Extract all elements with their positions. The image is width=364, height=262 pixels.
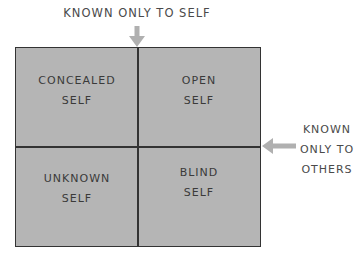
quadrant-label-line: SELF	[184, 91, 214, 111]
top-axis-label: KNOWN ONLY TO SELF	[0, 6, 274, 20]
quadrant-label-line: SELF	[62, 91, 92, 111]
right-label-line: ONLY TO	[290, 140, 364, 160]
quadrant-label-line: SELF	[184, 183, 214, 203]
quadrant-label-line: UNKNOWN	[44, 169, 111, 189]
quadrant-label-line: SELF	[62, 189, 92, 209]
johari-grid: CONCEALED SELF OPEN SELF UNKNOWN SELF BL…	[15, 47, 261, 247]
right-axis-label: KNOWN ONLY TO OTHERS	[290, 120, 364, 180]
quadrant-concealed-self: CONCEALED SELF	[16, 42, 138, 140]
quadrant-label-line: CONCEALED	[38, 71, 115, 91]
quadrant-blind-self: BLIND SELF	[138, 134, 260, 232]
right-label-line: OTHERS	[290, 160, 364, 180]
quadrant-open-self: OPEN SELF	[138, 42, 260, 140]
right-label-line: KNOWN	[290, 120, 364, 140]
quadrant-label-line: BLIND	[180, 163, 219, 183]
quadrant-unknown-self: UNKNOWN SELF	[16, 140, 138, 238]
quadrant-label-line: OPEN	[182, 71, 216, 91]
